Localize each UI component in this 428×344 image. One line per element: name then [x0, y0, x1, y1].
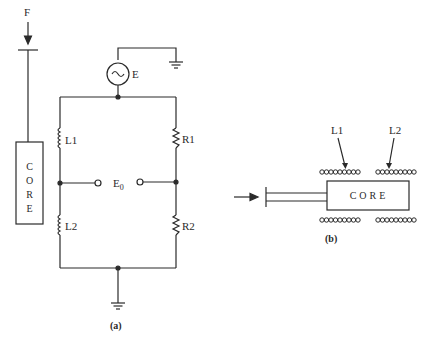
- output-terminal-right: [137, 179, 143, 185]
- core-label-b: CORE: [350, 190, 389, 201]
- core-letter-c: C: [26, 161, 33, 172]
- source-label: E: [132, 68, 139, 80]
- l2-pointer: [389, 138, 394, 166]
- source-ground-wire: [118, 48, 176, 62]
- r1-label: R1: [182, 133, 195, 145]
- top-node: [116, 95, 120, 99]
- l1-pointer: [338, 138, 345, 166]
- force-label: F: [24, 6, 30, 18]
- core-letter-e: E: [26, 203, 32, 214]
- force-arrow: [25, 22, 32, 44]
- l1-label: L1: [65, 134, 77, 146]
- inductor-l2-icon: [58, 215, 60, 235]
- output-label: E0: [113, 177, 124, 192]
- coil-l2-label: L2: [389, 124, 401, 136]
- ground-icon-top: [169, 62, 183, 68]
- coil-l1-bottom: [320, 218, 360, 222]
- sine-icon: [112, 72, 124, 77]
- core-letter-r: R: [26, 189, 33, 200]
- coil-l1-top: [320, 170, 360, 174]
- output-terminal-left: [95, 180, 101, 186]
- ground-icon-bottom: [111, 303, 125, 309]
- core-letter-o: O: [26, 175, 33, 186]
- inductor-l1-icon: [58, 128, 60, 148]
- caption-a: (a): [110, 320, 122, 332]
- caption-b: (b): [325, 233, 337, 245]
- output-label-subscript: 0: [120, 183, 124, 192]
- l2-label: L2: [65, 220, 77, 232]
- coil-l1-label: L1: [331, 124, 343, 136]
- r2-label: R2: [182, 220, 195, 232]
- lvdt-diagram: F C O R E E L1 L2 R1 R2 E0 (a) L1 L2 COR…: [0, 0, 428, 344]
- coil-l2-bottom: [376, 218, 416, 222]
- coil-l2-top: [376, 170, 416, 174]
- resistor-r2-icon: [173, 215, 179, 235]
- input-arrow: [234, 194, 258, 201]
- resistor-r1-icon: [173, 128, 179, 148]
